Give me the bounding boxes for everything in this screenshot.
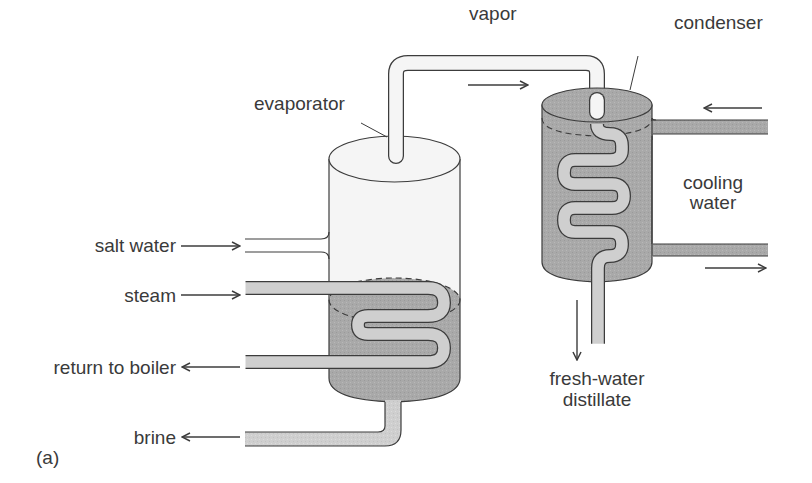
return-to-boiler-label: return to boiler — [20, 358, 176, 377]
brine-pipe — [245, 400, 401, 446]
condenser-leader-line — [630, 56, 638, 90]
steam-label: steam — [60, 286, 176, 305]
desalination-diagram: vapor condenser evaporator cooling water… — [0, 0, 812, 483]
evaporator-label: evaporator — [254, 94, 345, 113]
evaporator-leader-line — [361, 123, 387, 137]
distillate-label-line2: distillate — [533, 390, 661, 409]
vapor-label: vapor — [469, 4, 517, 23]
flow-arrows — [181, 85, 766, 437]
cooling-water-label-line2: water — [679, 193, 747, 212]
panel-label: (a) — [36, 448, 59, 467]
condenser-label: condenser — [674, 13, 763, 32]
brine-label: brine — [60, 428, 176, 447]
cooling-water-label-line1: cooling — [679, 173, 747, 192]
salt-water-label: salt water — [60, 236, 176, 255]
distillate-label-line1: fresh-water — [533, 369, 661, 388]
salt-water-inlet-pipe — [245, 232, 329, 259]
